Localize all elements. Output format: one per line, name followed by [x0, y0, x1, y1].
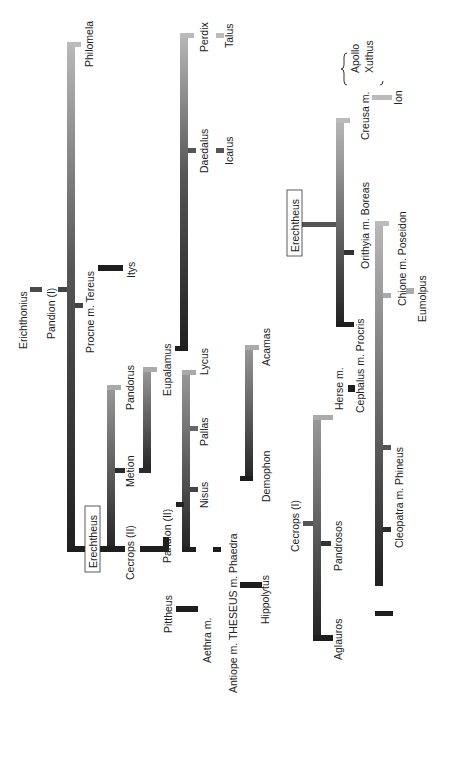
person-pandion-2: Pandion (II)	[161, 509, 173, 563]
person-cephalus: Cephalus m. Procris	[354, 318, 366, 413]
person-erechtheus: Erechtheus	[87, 515, 99, 568]
brace-apollo-xuthus	[341, 53, 383, 85]
connector	[383, 527, 391, 532]
connector	[336, 118, 350, 123]
connector	[75, 303, 83, 308]
person-xuthus: Xuthus	[363, 40, 375, 73]
line-metion-children	[143, 367, 151, 473]
connector	[302, 222, 338, 227]
person-nisus: Nisus	[198, 482, 210, 508]
person-eupalamus: Eupalamus	[161, 343, 173, 396]
athenian-kings-family-tree: Erechtheus Erechtheus Erichthonius Pandi…	[0, 0, 452, 757]
person-herse: Herse m.	[333, 367, 345, 410]
connector	[321, 541, 331, 546]
person-acamas: Acamas	[260, 328, 272, 366]
line-theseus-children	[245, 345, 253, 481]
connector	[213, 547, 221, 552]
person-pandion-1: Pandion (I)	[45, 288, 57, 339]
connector	[175, 346, 188, 351]
connector	[182, 370, 196, 375]
person-philomela: Philomela	[83, 21, 95, 67]
person-chione: Chione m. Poseidon	[396, 211, 408, 306]
line-erechtheus-2-children	[336, 118, 344, 327]
line-orithyia-children	[375, 221, 383, 586]
person-theseus: Antiope m. THESEUS m. Phaedra	[227, 533, 239, 693]
person-ion: Ion	[392, 90, 404, 105]
connector	[383, 445, 391, 450]
person-itys: Itys	[125, 262, 137, 278]
connector	[139, 468, 151, 473]
pandion-2-branch	[176, 345, 262, 612]
connector	[182, 547, 196, 552]
person-talus: Talus	[223, 23, 235, 48]
connector	[375, 611, 393, 616]
person-pandorus: Pandorus	[124, 365, 136, 410]
person-orithyia: Orithyia m. Boreas	[359, 182, 371, 269]
connector	[336, 322, 354, 327]
person-aethra: Aethra m.	[201, 617, 213, 663]
person-perdix: Perdix	[198, 21, 210, 52]
connector	[313, 635, 333, 641]
connector	[107, 546, 125, 552]
person-pandrosos: Pandrosos	[332, 521, 344, 571]
connector	[313, 415, 333, 420]
connector	[344, 250, 354, 255]
connector	[190, 426, 198, 431]
connector	[143, 367, 157, 372]
person-demophon: Demophon	[260, 450, 272, 502]
connector	[190, 487, 198, 492]
person-daedalus: Daedalus	[198, 129, 210, 173]
person-icarus: Icarus	[223, 136, 235, 165]
person-metion: Metion	[124, 455, 136, 487]
connector	[98, 265, 123, 271]
line-eupalamus-children	[180, 33, 188, 351]
connector	[245, 345, 259, 350]
connector	[375, 221, 389, 226]
connector	[188, 148, 196, 153]
line-pandion-1-children	[67, 42, 75, 552]
person-cecrops-2: Cecrops (II)	[124, 525, 136, 580]
person-cecrops-1: Cecrops (I)	[289, 500, 301, 552]
connector	[303, 521, 313, 526]
person-pallas: Pallas	[198, 417, 210, 446]
line-pandion-2-children	[182, 370, 190, 552]
connector	[240, 476, 253, 481]
line-cecrops-1-children	[313, 415, 321, 640]
person-pittheus: Pittheus	[162, 595, 174, 633]
person-procne: Procne m. Tereus	[84, 271, 96, 353]
person-erichthonius: Erichthonius	[17, 291, 29, 349]
person-erechtheus-2: Erechtheus	[289, 199, 301, 252]
person-creusa: Creusa m.	[359, 92, 371, 140]
cecrops-1-branch	[303, 385, 355, 641]
connector	[180, 33, 194, 38]
person-hippolytus: Hippolytus	[259, 575, 271, 624]
connector	[176, 606, 198, 612]
person-aglauros: Aglauros	[332, 619, 344, 660]
connector	[30, 287, 42, 292]
connector	[107, 385, 121, 390]
line-erechtheus-children	[107, 385, 115, 552]
person-apollo: Apollo	[349, 44, 361, 73]
connector	[372, 95, 392, 100]
connector	[383, 293, 391, 298]
connector	[67, 42, 81, 47]
connector	[176, 502, 184, 507]
person-eumolpus: Eumolpus	[416, 275, 428, 322]
person-lycus: Lycus	[198, 348, 210, 375]
person-cleopatra: Cleopatra m. Phineus	[393, 447, 405, 548]
